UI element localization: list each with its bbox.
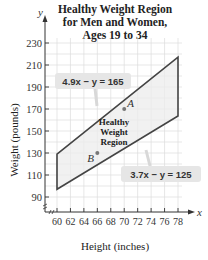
x-tick-label: 74 — [146, 216, 156, 227]
x-tick-label: 70 — [119, 216, 129, 227]
point-b-label: B — [87, 152, 94, 164]
x-axis-label: Height (inches) — [40, 240, 190, 252]
point-b-marker — [95, 151, 99, 155]
y-tick-label: 230 — [26, 38, 42, 49]
x-tick-label: 68 — [106, 216, 116, 227]
y-tick-label: 110 — [27, 170, 42, 181]
y-axis-label: Weight (pounds) — [8, 90, 20, 190]
chart-canvas: yx90110130150170190210230606264666870727… — [0, 0, 208, 260]
x-tick-label: 72 — [133, 216, 143, 227]
region-label: Region — [101, 137, 128, 147]
x-tick-label: 62 — [65, 216, 75, 227]
region-label: Healthy — [99, 117, 130, 127]
y-tick-label: 90 — [32, 192, 43, 203]
y-tick-label: 210 — [26, 60, 42, 71]
x-axis-arrow-icon — [188, 210, 195, 215]
callout-label-upper: 4.9x − y = 165 — [62, 76, 124, 87]
y-tick-label: 190 — [26, 82, 42, 93]
y-tick-label: 130 — [26, 148, 42, 159]
region-label: Weight — [100, 127, 128, 137]
x-tick-label: 76 — [160, 216, 170, 227]
y-tick-label: 170 — [26, 104, 42, 115]
point-a-label: A — [126, 97, 134, 109]
y-axis-arrow-icon — [43, 15, 48, 22]
x-tick-label: 78 — [173, 216, 183, 227]
x-tick-label: 66 — [92, 216, 102, 227]
callout-pointer — [95, 88, 97, 106]
y-axis-letter: y — [37, 6, 43, 18]
point-a-marker — [122, 107, 126, 111]
callout-pointer — [146, 150, 150, 166]
callout-label-lower: 3.7x − y = 125 — [130, 169, 192, 180]
x-tick-label: 64 — [79, 216, 89, 227]
x-tick-label: 60 — [52, 216, 62, 227]
x-axis-letter: x — [196, 206, 202, 218]
y-tick-label: 150 — [26, 126, 42, 137]
